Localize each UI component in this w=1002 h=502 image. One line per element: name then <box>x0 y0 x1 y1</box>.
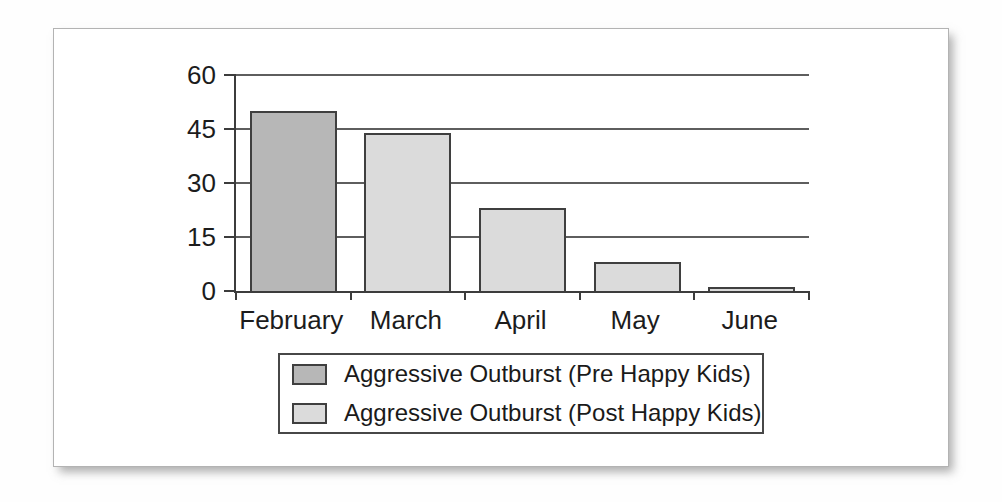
x-label-may: May <box>578 305 693 336</box>
y-tick-label-45: 45 <box>187 116 216 142</box>
y-axis-tick-30 <box>224 182 236 184</box>
legend-swatch-pre <box>292 364 327 385</box>
x-axis-tick-5 <box>808 291 810 300</box>
x-axis-tick-3 <box>579 291 581 300</box>
y-axis-tick-60 <box>224 74 236 76</box>
legend-label-post: Aggressive Outburst (Post Happy Kids) <box>344 399 762 427</box>
y-axis-tick-15 <box>224 236 236 238</box>
bar-march <box>364 133 451 291</box>
x-axis-tick-2 <box>464 291 466 300</box>
bar-april <box>479 208 566 291</box>
bar-may <box>594 262 681 291</box>
gridline-60 <box>236 74 809 76</box>
x-label-february: February <box>234 305 349 336</box>
legend-item-post: Aggressive Outburst (Post Happy Kids) <box>292 399 762 427</box>
y-tick-label-30: 30 <box>187 170 216 196</box>
x-label-june: June <box>692 305 807 336</box>
x-axis-labels: FebruaryMarchAprilMayJune <box>234 305 807 336</box>
bar-february <box>250 111 337 291</box>
figure-frame: 015304560 FebruaryMarchAprilMayJune Aggr… <box>53 28 949 467</box>
legend-item-pre: Aggressive Outburst (Pre Happy Kids) <box>292 360 762 388</box>
x-axis-tick-0 <box>235 291 237 300</box>
legend-label-pre: Aggressive Outburst (Pre Happy Kids) <box>344 360 751 388</box>
y-tick-label-60: 60 <box>187 62 216 88</box>
bar-chart-plot-area: 015304560 <box>234 75 809 293</box>
x-axis-tick-4 <box>693 291 695 300</box>
y-tick-label-0: 0 <box>202 278 216 304</box>
x-label-march: March <box>349 305 464 336</box>
bar-june <box>708 287 795 291</box>
x-axis-tick-1 <box>350 291 352 300</box>
chart-legend: Aggressive Outburst (Pre Happy Kids) Agg… <box>278 353 764 434</box>
legend-swatch-post <box>292 403 327 424</box>
y-axis-tick-45 <box>224 128 236 130</box>
y-tick-label-15: 15 <box>187 224 216 250</box>
x-label-april: April <box>463 305 578 336</box>
